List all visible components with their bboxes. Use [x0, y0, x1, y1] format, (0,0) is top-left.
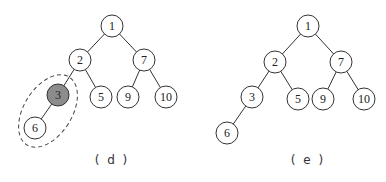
tree-node-3: 3 [47, 84, 69, 106]
node-label: 10 [358, 92, 370, 106]
node-label: 2 [272, 55, 278, 69]
tree-diagram: 127359106127359106 ( d ) ( e ) [0, 0, 386, 182]
node-label: 9 [125, 90, 131, 104]
tree-node-9: 9 [312, 88, 334, 110]
node-label: 2 [77, 53, 83, 67]
tree-node-1: 1 [297, 15, 319, 37]
node-label: 1 [305, 19, 311, 33]
node-label: 6 [224, 126, 230, 140]
node-label: 5 [98, 90, 104, 104]
tree-node-5: 5 [287, 88, 309, 110]
tree-node-9: 9 [117, 86, 139, 108]
tree-node-10: 10 [155, 86, 177, 108]
node-label: 3 [55, 88, 61, 102]
tree-node-2: 2 [69, 49, 91, 71]
node-label: 7 [338, 55, 344, 69]
node-label: 6 [32, 121, 38, 135]
node-label: 9 [320, 92, 326, 106]
node-label: 7 [141, 53, 147, 67]
subtree-dashed-outline [6, 64, 89, 157]
caption-d: ( d ) [95, 153, 130, 167]
tree-node-5: 5 [90, 86, 112, 108]
tree-node-7: 7 [330, 51, 352, 73]
tree-node-10: 10 [353, 88, 375, 110]
node-label: 3 [249, 90, 255, 104]
tree-node-1: 1 [101, 15, 123, 37]
caption-e: ( e ) [291, 153, 325, 167]
tree-node-6: 6 [24, 117, 46, 139]
node-label: 1 [109, 19, 115, 33]
tree-node-3: 3 [241, 86, 263, 108]
node-label: 5 [295, 92, 301, 106]
tree-node-7: 7 [133, 49, 155, 71]
node-label: 10 [160, 90, 172, 104]
tree-node-6: 6 [216, 122, 238, 144]
tree-node-2: 2 [264, 51, 286, 73]
